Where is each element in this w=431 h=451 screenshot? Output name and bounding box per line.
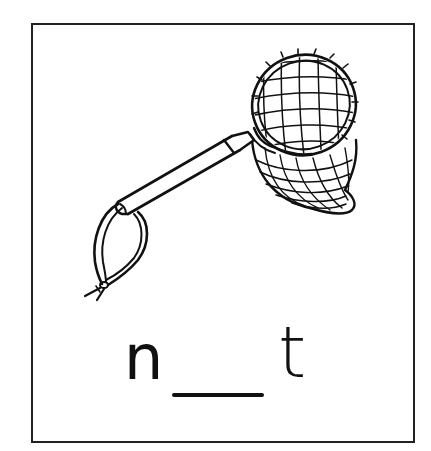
first-letter: n [124, 327, 163, 389]
word-puzzle: n t [0, 0, 431, 451]
last-letter: t [278, 316, 306, 388]
missing-letter-blank[interactable] [172, 393, 264, 397]
